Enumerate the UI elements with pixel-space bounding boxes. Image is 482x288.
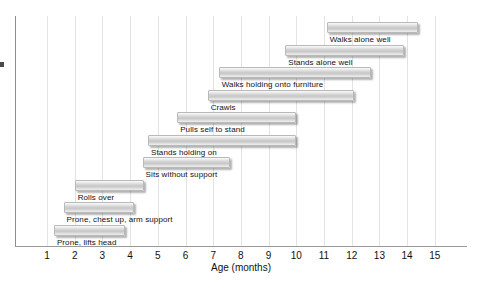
x-tick-label: 8 <box>229 250 253 262</box>
bar-label: Rolls over <box>78 193 115 203</box>
x-axis-title: Age (months) <box>0 262 482 273</box>
gridline-1 <box>47 16 48 246</box>
bar-label: Walks alone well <box>330 35 391 45</box>
bar <box>64 202 135 213</box>
bar-label: Walks holding onto furniture <box>222 80 324 90</box>
bar-label: Pulls self to stand <box>180 125 245 135</box>
x-tick-label: 9 <box>257 250 281 262</box>
plot-area: Walks alone wellStands alone wellWalks h… <box>15 16 467 246</box>
bar-label: Prone, chest up, arm support <box>67 215 173 225</box>
x-tick-label: 14 <box>395 250 419 262</box>
x-tick-label: 11 <box>312 250 336 262</box>
bar <box>285 45 404 56</box>
y-axis-line <box>15 16 16 246</box>
x-tick-label: 3 <box>90 250 114 262</box>
x-tick-label: 10 <box>284 250 308 262</box>
x-tick-label: 4 <box>118 250 142 262</box>
chart-root: Walks alone wellStands alone wellWalks h… <box>0 0 482 288</box>
gridline-9 <box>269 16 270 246</box>
x-tick-label: 6 <box>174 250 198 262</box>
bar <box>177 112 296 123</box>
bar <box>327 22 418 33</box>
bar-label: Prone, lifts head <box>57 238 117 248</box>
x-tick-label: 5 <box>146 250 170 262</box>
bar <box>208 90 355 101</box>
bar <box>54 225 125 236</box>
x-tick-label: 1 <box>35 250 59 262</box>
bar-label: Stands holding on <box>151 148 217 158</box>
x-tick-label: 12 <box>340 250 364 262</box>
bar-label: Sits without support <box>146 170 218 180</box>
bar <box>143 157 230 168</box>
y-axis-tick-mark <box>0 62 4 67</box>
gridline-15 <box>435 16 436 246</box>
bar <box>219 67 371 78</box>
bar-label: Stands alone well <box>288 58 352 68</box>
bar <box>148 135 296 146</box>
gridline-14 <box>407 16 408 246</box>
bar-label: Crawls <box>211 103 236 113</box>
x-tick-label: 7 <box>201 250 225 262</box>
x-tick-label: 13 <box>367 250 391 262</box>
x-tick-label: 15 <box>423 250 447 262</box>
gridline-5 <box>158 16 159 246</box>
x-tick-label: 2 <box>63 250 87 262</box>
bar <box>75 180 144 191</box>
